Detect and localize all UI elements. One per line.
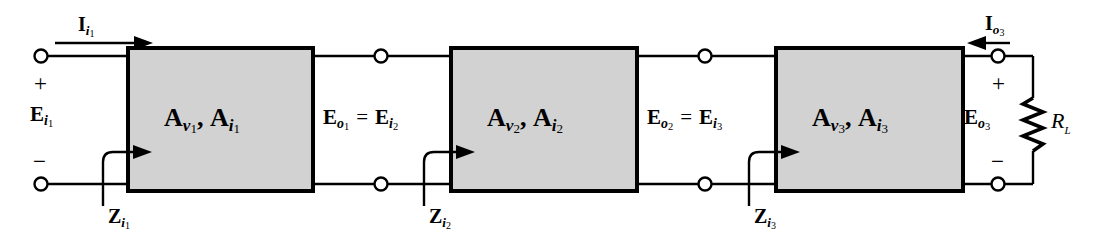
stage-3-input-impedance-label: Zi3 [754,206,776,231]
load-resistor-icon [1023,98,1043,151]
interstage-1-voltage-label: Eo1=Ei2 [323,107,398,132]
interstage-1-top-terminal [375,50,388,63]
stage-1-input-impedance-label: Zi1 [108,206,130,231]
input-voltage-label: Ei1 [30,104,53,129]
output-plus-sign: + [992,72,1005,95]
input-current-label: Ii1 [78,14,94,39]
stage-2-gain-label: Av2, Ai2 [487,105,563,135]
interstage-1-bottom-terminal [375,178,388,191]
stage-2-input-impedance-label: Zi2 [429,206,451,231]
input-top-terminal [35,50,48,63]
input-bottom-terminal [35,178,48,191]
output-current-arrowhead-icon [967,36,986,50]
input-minus-sign: − [33,150,46,173]
output-top-terminal [992,50,1005,63]
load-resistor-label: RL [1051,110,1071,136]
output-current-label: Io3 [985,13,1004,38]
output-voltage-label: Eo3 [964,107,990,132]
stage-1-gain-label: Av1, Ai1 [164,105,240,135]
output-bottom-terminal [992,178,1005,191]
cascaded-amplifier-diagram: Ii1 + Ei1 − Av1, Ai1 Zi1 Eo1=Ei2 Av2, Ai… [0,0,1093,243]
interstage-2-voltage-label: Eo2=Ei3 [647,107,722,132]
input-plus-sign: + [34,72,47,95]
interstage-2-bottom-terminal [699,178,712,191]
output-minus-sign: − [991,150,1004,173]
stage-3-gain-label: Av3, Ai3 [812,105,888,135]
interstage-2-top-terminal [699,50,712,63]
